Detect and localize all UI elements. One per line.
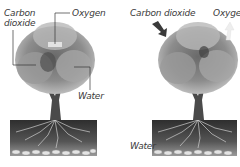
arrow-carbon-dioxide-in xyxy=(152,21,167,37)
label-carbon-dioxide: Carbon dioxide xyxy=(4,8,35,28)
label-water: Water xyxy=(78,91,104,101)
foliage xyxy=(158,22,238,94)
label-water: Water xyxy=(130,141,156,151)
panel-right: Carbon dioxide Oxygen Water xyxy=(120,0,240,167)
panel-left: Carbon dioxide Oxygen Water xyxy=(0,0,120,167)
label-carbon-dioxide: Carbon dioxide xyxy=(130,8,195,18)
label-oxygen: Oxygen xyxy=(72,8,106,18)
label-oxygen: Oxygen xyxy=(213,8,240,18)
arrow-oxygen-out xyxy=(225,22,234,40)
